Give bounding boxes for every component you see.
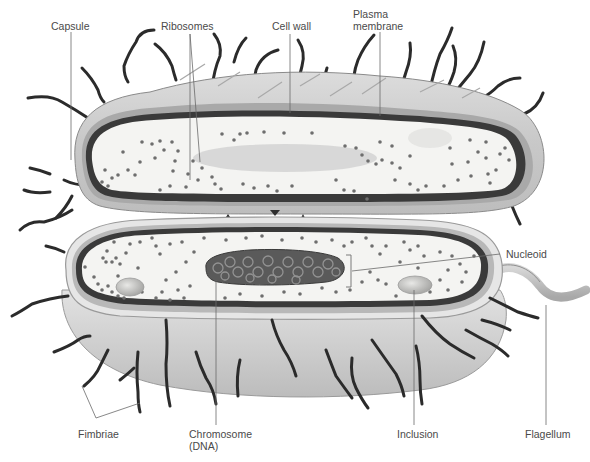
flagellum	[494, 265, 586, 297]
inclusion-right	[398, 276, 432, 294]
label-inclusion: Inclusion	[397, 428, 438, 440]
label-ribosomes: Ribosomes	[161, 20, 214, 32]
label-chromosome-line2: (DNA)	[189, 440, 218, 452]
label-fimbriae: Fimbriae	[78, 428, 119, 440]
inclusion-left	[116, 278, 144, 296]
label-plasma-membrane-line1: Plasma	[353, 8, 388, 20]
label-capsule: Capsule	[51, 20, 90, 32]
bacterial-cell-diagram	[0, 0, 590, 462]
top-cell	[75, 64, 544, 214]
label-cell-wall: Cell wall	[272, 20, 311, 32]
label-chromosome-dna: Chromosome (DNA)	[189, 428, 252, 452]
lower-cell	[62, 217, 506, 397]
label-chromosome-line1: Chromosome	[189, 428, 252, 440]
label-plasma-membrane: Plasma membrane	[353, 8, 403, 32]
label-plasma-membrane-line2: membrane	[353, 20, 403, 32]
chromosome-dna	[206, 249, 344, 285]
label-flagellum: Flagellum	[525, 428, 571, 440]
label-nucleoid: Nucleoid	[506, 248, 547, 260]
